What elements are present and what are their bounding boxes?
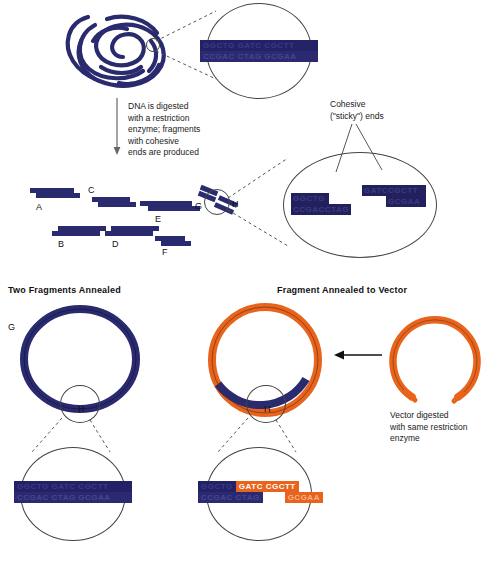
fragment-A (30, 188, 82, 200)
fragment-E (140, 201, 202, 213)
digested-vector (382, 305, 486, 405)
right-zoom-top-left: GGCTG (198, 481, 236, 492)
right-panel-heading: Fragment Annealed to Vector (277, 285, 407, 295)
sticky-right-fragment: GATCCGCTT GCGAA (362, 185, 430, 205)
fragment-label-A: A (36, 202, 42, 212)
right-zoom-bottom-left: CCGAC CTAG (198, 492, 263, 503)
left-zoom-sequence-block: GGCTG GATC CGCTT CCGAC CTAG GCGAA (14, 481, 132, 502)
fragment-label-B: B (58, 239, 64, 249)
right-zoom-bottom-right: GCGAA (285, 492, 323, 503)
top-sequence-top-strand: GGCTG GATC CGCTT (200, 40, 318, 51)
fragment-label-C: C (88, 185, 95, 195)
sticky-right-top-strand: GATCCGCTT (362, 185, 426, 196)
fragment-B (52, 226, 110, 238)
cohesive-ends-label: Cohesive ("sticky") ends (330, 99, 440, 122)
sticky-left-bottom-strand: CCGACCTAG (291, 204, 351, 215)
fragment-F (155, 236, 195, 248)
sticky-left-top-strand: GGCTG (291, 193, 329, 204)
sticky-left-fragment: GGCTG CCGACCTAG (291, 193, 353, 213)
left-zoom-bottom-strand: CCGAC CTAG GCGAA (14, 492, 132, 503)
fragment-label-E: E (155, 214, 161, 224)
fragment-label-D: D (112, 239, 119, 249)
right-zoom-top-mid: GATC CGCTT (236, 481, 299, 492)
right-zoom-sequence-block: GGCTG GATC CGCTT CCGAC CTAG GCGAA (198, 481, 324, 503)
ligation-arrow (334, 348, 382, 362)
sticky-right-bottom-strand: GCGAA (386, 196, 426, 207)
digest-caption: DNA is digested with a restriction enzym… (128, 101, 238, 159)
fragment-label-G: G (195, 201, 202, 211)
top-sequence-bottom-strand: CCGAC CTAG GCGAA (200, 51, 318, 62)
top-sequence-block: GGCTG GATC CGCTT CCGAC CTAG GCGAA (200, 40, 318, 61)
left-panel-heading: Two Fragments Annealed (8, 285, 121, 295)
digest-arrow (112, 98, 122, 156)
left-ring-label-g: G (8, 322, 15, 332)
fragment-C (92, 197, 140, 209)
fragment-label-F: F (162, 247, 168, 257)
vector-caption: Vector digested with same restriction en… (390, 410, 494, 445)
left-zoom-top-strand: GGCTG GATC CGCTT (14, 481, 132, 492)
